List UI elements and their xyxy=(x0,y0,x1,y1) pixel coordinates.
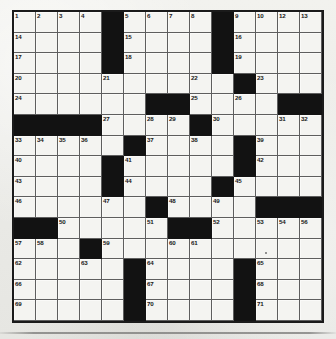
crossword-cell[interactable]: 26 xyxy=(234,94,256,115)
crossword-cell[interactable] xyxy=(300,280,322,301)
crossword-cell[interactable] xyxy=(300,239,322,260)
crossword-cell[interactable]: 58 xyxy=(36,239,58,260)
crossword-cell[interactable] xyxy=(36,280,58,301)
crossword-cell[interactable]: 4 xyxy=(80,12,102,33)
crossword-cell[interactable] xyxy=(234,218,256,239)
crossword-cell[interactable]: 61 xyxy=(190,239,212,260)
crossword-cell[interactable] xyxy=(124,218,146,239)
crossword-cell[interactable]: 50 xyxy=(58,218,80,239)
crossword-cell[interactable]: 56 xyxy=(300,218,322,239)
crossword-cell[interactable] xyxy=(212,136,234,157)
crossword-cell[interactable] xyxy=(102,218,124,239)
crossword-cell[interactable] xyxy=(278,156,300,177)
crossword-cell[interactable] xyxy=(102,300,124,321)
crossword-cell[interactable]: 66 xyxy=(14,280,36,301)
crossword-cell[interactable] xyxy=(58,33,80,54)
crossword-cell[interactable] xyxy=(58,74,80,95)
crossword-cell[interactable] xyxy=(80,218,102,239)
crossword-cell[interactable] xyxy=(102,94,124,115)
crossword-cell[interactable] xyxy=(36,197,58,218)
crossword-cell[interactable]: 6 xyxy=(146,12,168,33)
crossword-cell[interactable] xyxy=(212,259,234,280)
crossword-cell[interactable]: 1 xyxy=(14,12,36,33)
crossword-cell[interactable] xyxy=(124,239,146,260)
crossword-cell[interactable] xyxy=(212,156,234,177)
crossword-cell[interactable] xyxy=(190,33,212,54)
crossword-cell[interactable]: 36 xyxy=(80,136,102,157)
crossword-cell[interactable]: 27 xyxy=(102,115,124,136)
crossword-cell[interactable]: 71 xyxy=(256,300,278,321)
crossword-cell[interactable]: 15 xyxy=(124,33,146,54)
crossword-cell[interactable]: 41 xyxy=(124,156,146,177)
crossword-cell[interactable]: 57 xyxy=(14,239,36,260)
crossword-cell[interactable] xyxy=(234,239,256,260)
crossword-cell[interactable] xyxy=(36,33,58,54)
crossword-cell[interactable]: 45 xyxy=(234,177,256,198)
crossword-cell[interactable]: 23 xyxy=(256,74,278,95)
crossword-cell[interactable] xyxy=(58,94,80,115)
crossword-cell[interactable] xyxy=(80,74,102,95)
crossword-cell[interactable] xyxy=(212,74,234,95)
crossword-cell[interactable]: 52 xyxy=(212,218,234,239)
crossword-cell[interactable] xyxy=(300,53,322,74)
crossword-cell[interactable] xyxy=(36,156,58,177)
crossword-cell[interactable]: 63 xyxy=(80,259,102,280)
crossword-cell[interactable] xyxy=(102,280,124,301)
crossword-cell[interactable]: 21 xyxy=(102,74,124,95)
crossword-cell[interactable]: 2 xyxy=(36,12,58,33)
crossword-cell[interactable] xyxy=(234,115,256,136)
crossword-cell[interactable]: 30 xyxy=(212,115,234,136)
crossword-cell[interactable] xyxy=(80,197,102,218)
crossword-cell[interactable]: 69 xyxy=(14,300,36,321)
crossword-cell[interactable] xyxy=(146,33,168,54)
crossword-cell[interactable] xyxy=(58,259,80,280)
crossword-cell[interactable]: 34 xyxy=(36,136,58,157)
crossword-cell[interactable] xyxy=(168,300,190,321)
crossword-cell[interactable]: 35 xyxy=(58,136,80,157)
crossword-cell[interactable]: 59 xyxy=(102,239,124,260)
crossword-cell[interactable]: 9 xyxy=(234,12,256,33)
crossword-cell[interactable] xyxy=(278,74,300,95)
crossword-cell[interactable] xyxy=(190,280,212,301)
crossword-cell[interactable] xyxy=(58,300,80,321)
crossword-cell[interactable] xyxy=(212,239,234,260)
crossword-cell[interactable] xyxy=(300,33,322,54)
crossword-cell[interactable]: 33 xyxy=(14,136,36,157)
crossword-cell[interactable] xyxy=(58,280,80,301)
crossword-cell[interactable]: 7 xyxy=(168,12,190,33)
crossword-cell[interactable] xyxy=(256,53,278,74)
crossword-cell[interactable]: 31 xyxy=(278,115,300,136)
crossword-cell[interactable]: 29 xyxy=(168,115,190,136)
crossword-cell[interactable] xyxy=(278,53,300,74)
crossword-cell[interactable] xyxy=(168,136,190,157)
crossword-cell[interactable] xyxy=(300,74,322,95)
crossword-cell[interactable] xyxy=(256,33,278,54)
crossword-cell[interactable] xyxy=(278,136,300,157)
crossword-cell[interactable]: 3 xyxy=(58,12,80,33)
crossword-cell[interactable]: 47 xyxy=(102,197,124,218)
crossword-cell[interactable]: 39 xyxy=(256,136,278,157)
crossword-cell[interactable]: 43 xyxy=(14,177,36,198)
crossword-cell[interactable] xyxy=(212,300,234,321)
crossword-cell[interactable]: 28 xyxy=(146,115,168,136)
crossword-cell[interactable] xyxy=(278,33,300,54)
crossword-cell[interactable]: 62 xyxy=(14,259,36,280)
crossword-cell[interactable]: 24 xyxy=(14,94,36,115)
crossword-cell[interactable]: 51 xyxy=(146,218,168,239)
crossword-cell[interactable]: 54 xyxy=(278,218,300,239)
crossword-cell[interactable] xyxy=(80,280,102,301)
crossword-cell[interactable] xyxy=(190,259,212,280)
crossword-cell[interactable]: 70 xyxy=(146,300,168,321)
crossword-cell[interactable] xyxy=(36,177,58,198)
crossword-cell[interactable] xyxy=(168,33,190,54)
crossword-cell[interactable] xyxy=(256,239,278,260)
crossword-cell[interactable] xyxy=(80,156,102,177)
crossword-grid[interactable]: 1234567891012131415161718192021222324252… xyxy=(14,12,322,321)
crossword-cell[interactable]: 19 xyxy=(234,53,256,74)
crossword-cell[interactable] xyxy=(168,280,190,301)
crossword-cell[interactable] xyxy=(300,136,322,157)
crossword-cell[interactable] xyxy=(58,156,80,177)
crossword-cell[interactable] xyxy=(124,197,146,218)
crossword-cell[interactable] xyxy=(124,94,146,115)
crossword-cell[interactable] xyxy=(256,94,278,115)
